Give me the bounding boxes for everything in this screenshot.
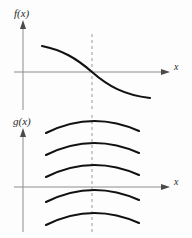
upper-y-axis-label: f(x) [14, 7, 30, 20]
upper-panel [14, 20, 170, 110]
lower-y-axis-label: g(x) [13, 115, 31, 128]
figure-container: f(x) x g(x) x [0, 0, 192, 238]
upper-x-axis-label: x [173, 61, 179, 72]
upper-x-axis-arrowhead [161, 69, 170, 75]
lower-panel [14, 115, 170, 232]
math-figure: f(x) x g(x) x [0, 0, 192, 238]
lower-x-axis-label: x [173, 176, 179, 187]
lower-y-axis-arrowhead [20, 128, 26, 137]
lower-x-axis-arrowhead [161, 184, 170, 190]
upper-y-axis-arrowhead [20, 20, 26, 29]
